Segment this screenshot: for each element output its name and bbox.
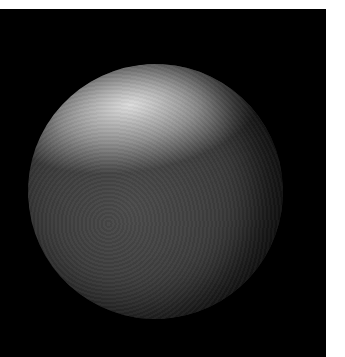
photo-frame (0, 9, 326, 357)
moon-image (11, 47, 299, 335)
